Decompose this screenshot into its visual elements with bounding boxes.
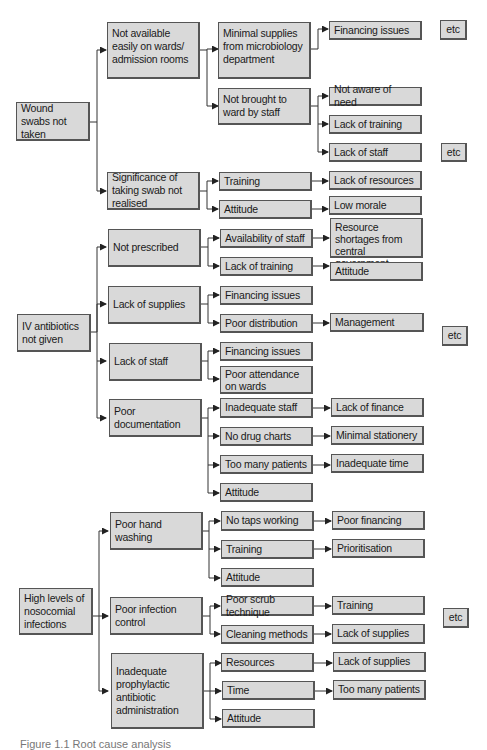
cause-lack-of-finance: Lack of finance [331, 398, 424, 417]
cause-lack-of-supplies: Lack of supplies [108, 286, 201, 324]
root-wound-swabs-not-taken: Wound swabs not taken [16, 102, 90, 141]
cause-availability-of-staff: Availability of staff [220, 229, 313, 248]
cause-training: Training [221, 540, 314, 559]
cause-not-prescribed: Not prescribed [108, 229, 201, 267]
cause-cleaning-methods: Cleaning methods [221, 625, 314, 644]
cause-minimal-stationery: Minimal stationery [331, 426, 424, 445]
cause-attitude: Attitude [330, 262, 423, 281]
cause-lack-of-resources: Lack of resources [329, 171, 422, 190]
cause-not-available-easily: Not available easily on wards/ admission… [107, 22, 200, 79]
cause-inadequate-time: Inadequate time [331, 454, 424, 473]
cause-poor-documentation: Poor documentation [109, 399, 202, 437]
cause-inadequate-prophylactic-antibiotic: Inadequate prophylactic antibiotic admin… [111, 653, 204, 729]
cause-poor-attendance-on-wards: Poor attendance on wards [220, 366, 313, 394]
cause-time: Time [222, 681, 315, 700]
figure-caption: Figure 1.1 Root cause analysis [20, 738, 171, 750]
cause-poor-scrub-technique: Poor scrub technique [221, 596, 314, 616]
cause-no-taps-working: No taps working [221, 511, 314, 531]
cause-inadequate-staff: Inadequate staff [220, 398, 313, 418]
cause-financing-issues: Financing issues [329, 21, 422, 40]
etc-label: etc [443, 608, 469, 628]
cause-not-brought-to-ward: Not brought to ward by staff [218, 88, 311, 125]
cause-poor-hand-washing: Poor hand washing [110, 512, 203, 550]
cause-poor-financing: Poor financing [332, 511, 425, 530]
cause-prioritisation: Prioritisation [332, 539, 425, 558]
cause-low-morale: Low morale [329, 196, 422, 215]
cause-lack-of-supplies: Lack of supplies [333, 652, 426, 672]
cause-financing-issues: Financing issues [220, 286, 313, 305]
cause-poor-infection-control: Poor infection control [110, 597, 203, 635]
cause-significance-not-realised: Significance of taking swab not realised [107, 172, 200, 210]
cause-attitude: Attitude [222, 709, 315, 728]
cause-lack-of-training: Lack of training [329, 115, 422, 134]
cause-attitude: Attitude [219, 200, 312, 219]
cause-no-drug-charts: No drug charts [220, 427, 313, 446]
etc-label: etc [440, 20, 467, 40]
cause-poor-distribution: Poor distribution [220, 314, 313, 333]
root-iv-antibiotics-not-given: IV antibiotics not given [17, 314, 91, 352]
cause-too-many-patients: Too many patients [333, 680, 426, 700]
cause-too-many-patients: Too many patients [220, 455, 313, 474]
cause-minimal-supplies: Minimal supplies from microbiology depar… [218, 22, 311, 79]
etc-label: etc [441, 143, 467, 162]
cause-lack-of-staff: Lack of staff [329, 143, 422, 162]
cause-attitude: Attitude [220, 483, 313, 502]
cause-training: Training [219, 172, 312, 191]
cause-lack-of-staff: Lack of staff [109, 343, 202, 381]
cause-lack-of-training: Lack of training [220, 257, 313, 276]
cause-resource-shortages: Resource shortages from central governme… [330, 218, 423, 258]
etc-label: etc [442, 326, 468, 346]
cause-training: Training [332, 596, 425, 615]
cause-resources: Resources [221, 653, 314, 672]
cause-management: Management [330, 313, 424, 332]
cause-lack-of-supplies: Lack of supplies [332, 624, 425, 644]
cause-not-aware-of-need: Not aware of need [329, 87, 422, 106]
cause-attitude: Attitude [221, 568, 314, 587]
root-high-nosocomial-infections: High levels of nosocomial infections [19, 588, 93, 635]
cause-financing-issues: Financing issues [220, 342, 313, 361]
